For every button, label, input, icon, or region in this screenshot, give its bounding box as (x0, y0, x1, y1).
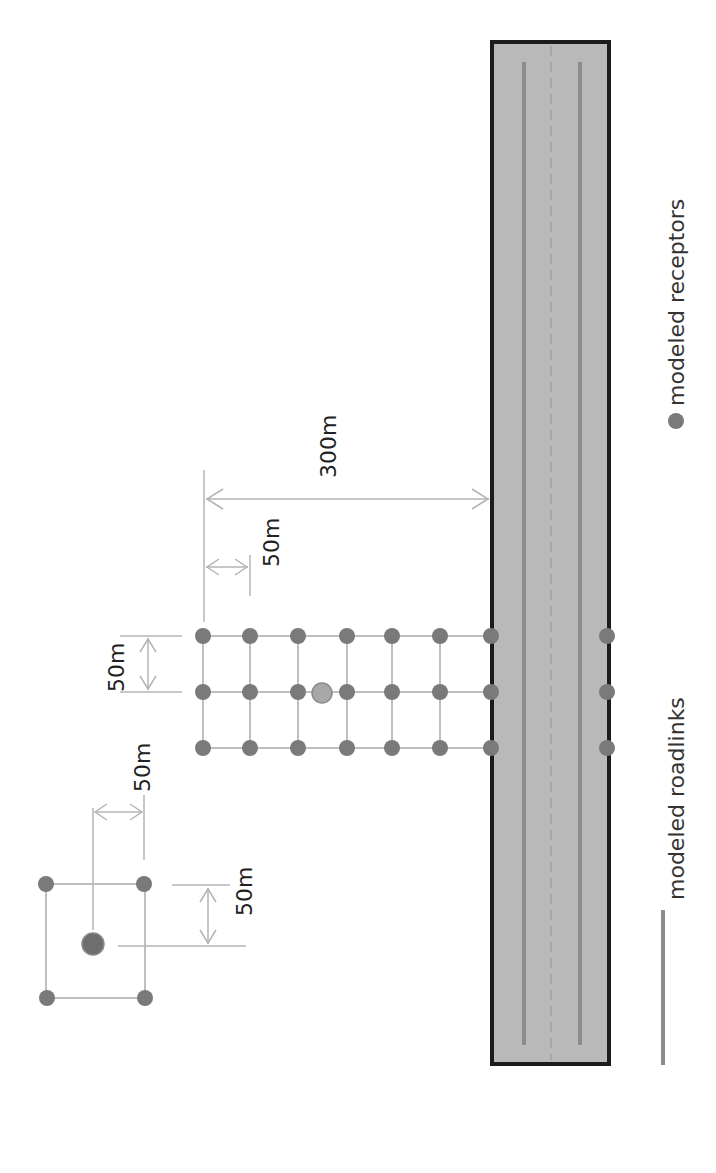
box-corner-point (136, 876, 152, 892)
receptor-dot-icon (668, 413, 684, 429)
receptor-point (384, 684, 400, 700)
receptor-point (599, 628, 615, 644)
receptor-point (195, 740, 211, 756)
dimension-arrow (206, 489, 489, 509)
receptor-point (290, 740, 306, 756)
receptor-point (290, 628, 306, 644)
dimension-label-distance-to-road: 300m (316, 415, 341, 478)
receptor-point (384, 740, 400, 756)
receptor-point (432, 628, 448, 644)
box-dimensions: 50m 50m (93, 743, 257, 946)
receptor-point (290, 684, 306, 700)
legend-label-receptors: modeled receptors (664, 199, 689, 406)
receptor-point (339, 740, 355, 756)
receptor-point (242, 740, 258, 756)
box-corner-point (38, 876, 54, 892)
dimension-arrow (140, 638, 156, 690)
legend: modeled receptors modeled roadlinks (663, 199, 689, 1065)
dimension-label-offset: 50m (259, 518, 284, 567)
dimension-arrow (206, 559, 248, 575)
legend-label-roadlinks: modeled roadlinks (664, 697, 689, 900)
dimension-label-box-horizontal: 50m (130, 743, 155, 792)
dimension-label-box-vertical: 50m (232, 867, 257, 916)
receptor-point (432, 740, 448, 756)
dimension-arrow (200, 888, 216, 944)
receptor-point (384, 628, 400, 644)
box-center-point (82, 933, 104, 955)
receptor-point (483, 740, 499, 756)
receptor-point (483, 684, 499, 700)
receptor-point (195, 628, 211, 644)
dimension-arrow (95, 804, 142, 820)
receptor-point (432, 684, 448, 700)
receptor-point (242, 684, 258, 700)
dimension-label-grid-spacing: 50m (104, 643, 129, 692)
legend-item-roadlinks: modeled roadlinks (663, 697, 689, 1065)
diagram-canvas: 50m 50m 300m (0, 0, 716, 1173)
receptor-point (195, 684, 211, 700)
road (492, 42, 609, 1064)
receptor-point (339, 628, 355, 644)
highlighted-receptor (312, 683, 332, 703)
grid-dimensions: 50m 50m 300m (104, 415, 489, 692)
receptor-point (339, 684, 355, 700)
receptor-point (483, 628, 499, 644)
box-corner-point (137, 990, 153, 1006)
receptor-point (599, 740, 615, 756)
receptor-point (599, 684, 615, 700)
source-box (38, 876, 153, 1006)
legend-item-receptors: modeled receptors (664, 199, 689, 429)
receptor-point (242, 628, 258, 644)
box-corner-point (39, 990, 55, 1006)
